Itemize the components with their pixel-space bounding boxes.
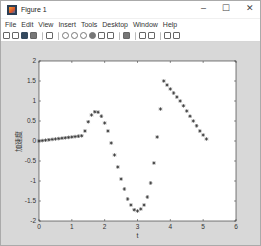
edit-plot-arrow-icon[interactable]	[46, 32, 53, 39]
data-point-marker	[40, 139, 44, 143]
matlab-logo-icon	[7, 5, 17, 15]
y-tick-label: -0.5	[25, 157, 37, 164]
y-axis-label: 加速度	[14, 131, 23, 152]
data-point-marker	[73, 135, 77, 139]
menu-help[interactable]: Help	[163, 21, 177, 28]
x-tick-label: 6	[234, 223, 238, 230]
y-tick-label: 0.5	[27, 117, 36, 124]
toolbar-separator	[160, 32, 161, 40]
data-point-marker	[63, 136, 67, 140]
zoom-out-icon[interactable]	[71, 32, 78, 39]
data-point-marker	[67, 136, 71, 140]
data-cursor-icon[interactable]	[98, 32, 105, 39]
maximize-button[interactable]: ☐	[222, 3, 230, 13]
data-point-marker	[188, 114, 192, 118]
menu-tools[interactable]: Tools	[81, 21, 97, 28]
minimize-button[interactable]: –	[201, 3, 206, 13]
data-point-marker	[90, 113, 94, 117]
menu-window[interactable]: Window	[133, 21, 158, 28]
y-tick-label: -2	[30, 217, 36, 224]
print-icon[interactable]	[30, 32, 37, 39]
x-tick-label: 0	[37, 223, 41, 230]
hide-plot-tools-icon[interactable]	[164, 32, 171, 39]
show-plot-tools-icon[interactable]	[173, 32, 180, 39]
zoom-in-icon[interactable]	[62, 32, 69, 39]
data-point-marker	[80, 134, 84, 138]
toolbar-separator	[135, 32, 136, 40]
y-tick-label: -1.5	[25, 197, 37, 204]
y-tick-label: -1	[30, 177, 36, 184]
data-point-marker	[96, 110, 100, 114]
figure-toolbar	[1, 30, 260, 42]
brush-icon[interactable]	[107, 32, 114, 39]
axes[interactable]: 0123456-2-1.5-1-0.500.511.52t加速度	[1, 42, 260, 245]
y-tick-label: 2	[32, 57, 36, 64]
window-title: Figure 1	[21, 6, 47, 13]
toolbar-separator	[58, 32, 59, 40]
figure-canvas: 0123456-2-1.5-1-0.500.511.52t加速度	[1, 42, 260, 245]
data-point-marker	[192, 119, 196, 123]
menu-file[interactable]: File	[5, 21, 16, 28]
data-point-marker	[93, 110, 97, 114]
y-tick-label: 1.5	[27, 77, 36, 84]
data-point-marker	[103, 121, 107, 125]
open-file-icon[interactable]	[12, 32, 19, 39]
insert-colorbar-icon[interactable]	[139, 32, 146, 39]
title-bar[interactable]: Figure 1 – ☐ ✕	[1, 1, 260, 18]
data-point-marker	[100, 114, 104, 118]
menu-desktop[interactable]: Desktop	[102, 21, 128, 28]
data-point-marker	[44, 138, 48, 142]
x-axis-label: t	[137, 232, 139, 239]
brush-dropdown-icon[interactable]	[119, 32, 120, 40]
save-icon[interactable]	[21, 32, 28, 39]
x-tick-label: 3	[136, 223, 140, 230]
x-tick-label: 5	[201, 223, 205, 230]
menu-view[interactable]: View	[38, 21, 53, 28]
menu-bar: File Edit View Insert Tools Desktop Wind…	[1, 19, 260, 30]
menu-edit[interactable]: Edit	[21, 21, 33, 28]
pan-icon[interactable]	[80, 32, 87, 39]
data-point-marker	[47, 138, 51, 142]
menu-insert[interactable]: Insert	[58, 21, 76, 28]
y-tick-label: 0	[32, 137, 36, 144]
rotate-3d-icon[interactable]	[89, 32, 96, 39]
axes-box	[39, 61, 236, 221]
x-tick-label: 4	[169, 223, 173, 230]
close-button[interactable]: ✕	[246, 3, 254, 13]
data-point-marker	[132, 208, 136, 212]
data-point-marker	[60, 136, 64, 140]
x-tick-label: 2	[103, 223, 107, 230]
data-point-marker	[77, 134, 81, 138]
data-point-marker	[50, 138, 54, 142]
data-point-marker	[195, 124, 199, 128]
data-point-marker	[182, 104, 186, 108]
new-figure-icon[interactable]	[3, 32, 10, 39]
y-tick-label: 1	[32, 97, 36, 104]
data-point-marker	[57, 137, 61, 141]
insert-legend-icon[interactable]	[148, 32, 155, 39]
figure-window: Figure 1 – ☐ ✕ File Edit View Insert Too…	[0, 0, 261, 246]
x-tick-label: 1	[70, 223, 74, 230]
data-point-marker	[86, 120, 90, 124]
toolbar-separator	[42, 32, 43, 40]
link-plot-icon[interactable]	[123, 32, 130, 39]
